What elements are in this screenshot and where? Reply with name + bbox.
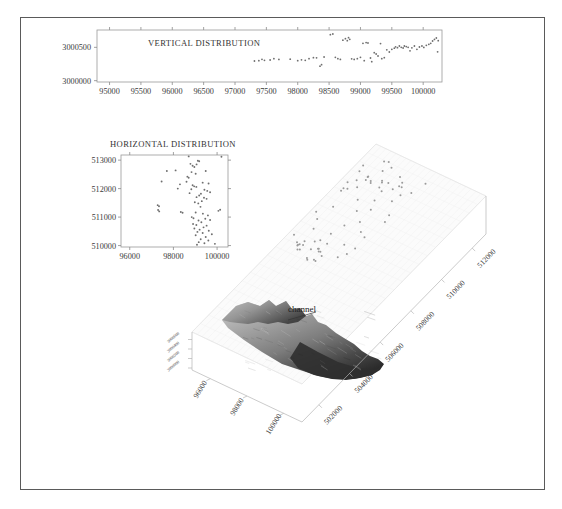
channel-annotation-label: channel <box>288 304 316 314</box>
three-d-block-diagram: channel 3000000300020030004003000600 960… <box>140 130 540 490</box>
svg-text:98000: 98000 <box>287 87 307 96</box>
vertical-distribution-plot: 9500095500960009650097000975009800098500… <box>60 22 480 102</box>
vertical-plot-points <box>254 33 440 67</box>
svg-text:97500: 97500 <box>256 87 276 96</box>
vertical-plot-title: VERTICAL DISTRIBUTION <box>148 38 261 48</box>
vertical-plot-top-ticks <box>110 27 424 30</box>
svg-text:99000: 99000 <box>350 87 370 96</box>
vertical-distribution-panel: 9500095500960009650097000975009800098500… <box>60 22 480 102</box>
svg-text:96000: 96000 <box>120 252 140 261</box>
svg-text:98000: 98000 <box>228 396 246 417</box>
svg-text:508000: 508000 <box>414 310 436 333</box>
svg-text:98500: 98500 <box>319 87 339 96</box>
svg-text:510000: 510000 <box>445 278 467 301</box>
svg-text:502000: 502000 <box>322 404 344 427</box>
svg-text:99500: 99500 <box>382 87 402 96</box>
svg-text:97000: 97000 <box>225 87 245 96</box>
svg-text:513000: 513000 <box>91 156 116 165</box>
three-d-z-ticks: 3000000300020030004003000600 <box>166 331 192 373</box>
svg-text:96000: 96000 <box>162 87 182 96</box>
svg-text:512000: 512000 <box>91 185 116 194</box>
figure-canvas: 9500095500960009650097000975009800098500… <box>0 0 562 509</box>
svg-text:506000: 506000 <box>383 341 405 364</box>
svg-text:512000: 512000 <box>475 247 497 270</box>
svg-text:96000: 96000 <box>191 379 209 400</box>
svg-text:100000: 100000 <box>411 87 436 96</box>
vertical-plot-y-ticks: 30000003000500 <box>62 43 97 85</box>
three-d-x-tick-labels: 9600098000100000 <box>191 379 283 436</box>
svg-text:3000500: 3000500 <box>62 43 91 52</box>
svg-text:95500: 95500 <box>131 87 151 96</box>
svg-text:96500: 96500 <box>193 87 213 96</box>
svg-text:3000000: 3000000 <box>62 77 91 86</box>
vertical-plot-x-ticks: 9500095500960009650097000975009800098500… <box>99 82 435 96</box>
three-d-block-panel: channel 3000000300020030004003000600 960… <box>140 130 540 490</box>
svg-text:511000: 511000 <box>92 213 116 222</box>
svg-text:100000: 100000 <box>264 412 284 436</box>
svg-text:95000: 95000 <box>99 87 119 96</box>
svg-text:510000: 510000 <box>91 242 116 251</box>
